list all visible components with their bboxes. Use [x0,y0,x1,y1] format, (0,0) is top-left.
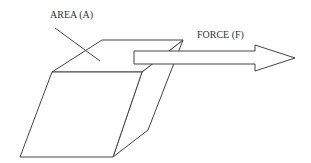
shear-diagram [0,0,311,163]
force-label: FORCE (F) [197,29,244,40]
area-label: AREA (A) [50,9,93,20]
